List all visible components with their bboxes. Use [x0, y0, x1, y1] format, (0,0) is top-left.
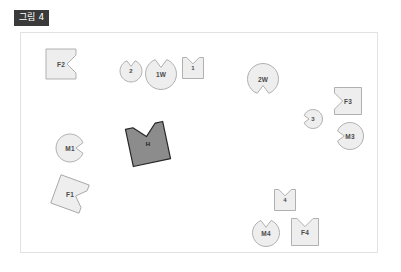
figure-root: 그림 4 F221W12WF33M3HM1F14M4F4 — [0, 0, 401, 272]
figure-caption-badge: 그림 4 — [14, 10, 49, 26]
figure-frame — [20, 32, 378, 253]
